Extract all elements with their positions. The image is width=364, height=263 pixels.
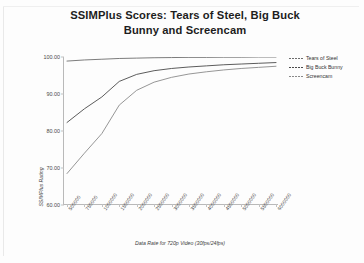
y-tick-label: 80.00 xyxy=(47,128,61,134)
legend-label: Screencam xyxy=(306,73,332,80)
y-tick-mark xyxy=(61,131,64,132)
y-tick-mark xyxy=(61,94,64,95)
y-tick-mark xyxy=(61,205,64,206)
y-axis-ticks: 60.0070.0080.0090.00100.00 xyxy=(64,57,279,205)
scan-edge-top xyxy=(3,6,359,7)
legend-item[interactable]: Big Buck Bunny xyxy=(289,63,343,72)
scan-edge-left xyxy=(3,6,4,256)
legend-item[interactable]: Tears of Steel xyxy=(289,54,343,63)
legend-item[interactable]: Screencam xyxy=(289,72,343,81)
x-axis-title: Data Rate for 720p Video (30fps/24fps) xyxy=(100,240,260,246)
y-tick-mark xyxy=(61,57,64,58)
chart-page: SSIMPlus Scores: Tears of Steel, Big Buc… xyxy=(0,0,364,263)
legend-label: Big Buck Bunny xyxy=(306,64,343,71)
y-tick-mark xyxy=(61,168,64,169)
plot-area: 60.0070.0080.0090.00100.00 SSIMPlus Rati… xyxy=(63,57,278,205)
legend-line-swatch xyxy=(289,58,303,59)
y-tick-label: 70.00 xyxy=(47,165,61,171)
legend-label: Tears of Steel xyxy=(306,55,338,62)
x-axis-ticks: 5000007500001000000150000020000002500000… xyxy=(63,208,278,242)
legend-line-swatch xyxy=(289,67,303,68)
y-tick-label: 90.00 xyxy=(47,91,61,97)
y-tick-label: 100.00 xyxy=(44,54,61,60)
chart-title: SSIMPlus Scores: Tears of Steel, Big Buc… xyxy=(60,8,310,38)
legend-line-swatch xyxy=(289,76,303,77)
chart-legend: Tears of SteelBig Buck BunnyScreencam xyxy=(289,54,343,81)
y-axis-title: SSIMPlus Rating xyxy=(38,147,44,227)
y-tick-label: 60.00 xyxy=(47,202,61,208)
